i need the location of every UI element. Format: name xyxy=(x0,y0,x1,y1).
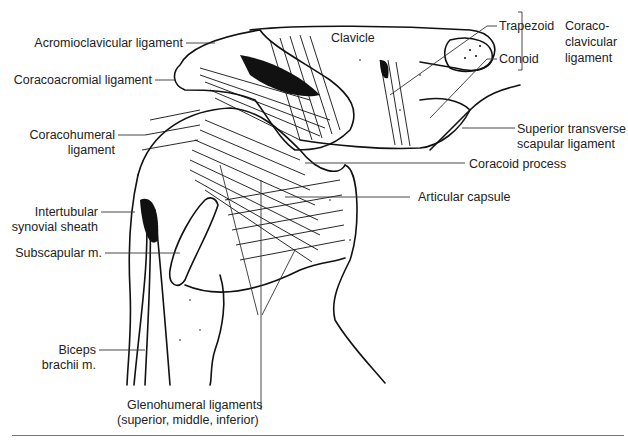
humerus-shaft-left xyxy=(127,175,138,385)
label-glenohumeral-ligaments-line2: (superior, middle, inferior) xyxy=(117,413,257,428)
label-intertubular-sheath-line2: synovial sheath xyxy=(5,220,98,235)
label-articular-capsule: Articular capsule xyxy=(418,190,510,205)
label-biceps-brachii-line1: Biceps xyxy=(20,343,96,358)
label-coracohumeral-ligament-line2: ligament xyxy=(20,143,115,158)
label-coracoclavicular-line3: ligament xyxy=(565,51,612,66)
label-superior-transverse-scapular-line1: Superior transverse xyxy=(517,122,626,137)
label-intertubular-sheath-line1: Intertubular xyxy=(5,205,98,220)
scapula-edge xyxy=(334,165,385,383)
label-coracoacromial-ligament: Coracoacromial ligament xyxy=(5,73,152,88)
label-acromioclavicular-ligament: Acromioclavicular ligament xyxy=(30,36,183,51)
coracoid-outline xyxy=(300,85,520,148)
label-clavicle: Clavicle xyxy=(331,31,375,46)
label-coracoclavicular-line1: Coraco- xyxy=(565,19,609,34)
bottom-divider xyxy=(12,435,624,436)
label-trapezoid: Trapezoid xyxy=(499,19,554,34)
label-superior-transverse-scapular-line2: scapular ligament xyxy=(517,137,615,152)
label-coracohumeral-ligament-line1: Coracohumeral xyxy=(20,128,115,143)
label-biceps-brachii-line2: brachii m. xyxy=(20,358,96,373)
label-coracoid-process: Coracoid process xyxy=(469,157,566,172)
label-glenohumeral-ligaments-line1: Glenohumeral ligaments xyxy=(127,398,257,413)
subscapular-sheath xyxy=(170,198,218,285)
label-subscapular-muscle: Subscapular m. xyxy=(5,246,102,261)
label-conoid: Conoid xyxy=(499,52,539,67)
label-coracoclavicular-line2: clavicular xyxy=(565,35,617,50)
